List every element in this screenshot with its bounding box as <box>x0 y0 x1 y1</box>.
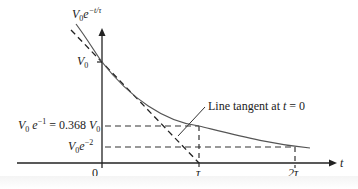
bottom-shade <box>0 176 358 189</box>
annotation-pointer <box>178 107 205 136</box>
y-axis-label: V0e−t/τ <box>72 6 101 23</box>
chart-canvas <box>0 0 358 189</box>
y-axis-arrow-icon <box>99 28 106 36</box>
x-axis-arrow-icon <box>329 160 337 167</box>
v0-tick-label: V0 <box>77 54 88 70</box>
t-axis-label: t <box>340 156 343 171</box>
tangent-annotation: Line tangent at t = 0 <box>208 99 305 114</box>
decay-curve <box>76 24 310 148</box>
e2-tick-label: V0e−2 <box>68 138 93 155</box>
e1-tick-label: V0 e−1 = 0.368 V0 <box>18 117 100 134</box>
